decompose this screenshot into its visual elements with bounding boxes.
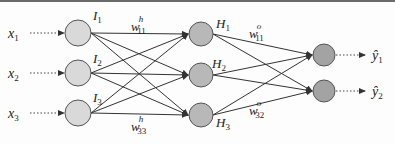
hidden-node-3 [189, 103, 213, 127]
weight-label-wo32: wo32 [249, 98, 264, 120]
weight-label-wh11: wh11 [131, 14, 146, 36]
node-label-i1: I1 [92, 8, 102, 25]
input-label-x2: x2 [7, 66, 19, 83]
node-label-i2: I2 [92, 51, 102, 68]
neural-network-diagram: x1 x2 x3 I1 I2 I3 H1 H2 H3 wh11 wh33 wo1… [0, 0, 395, 144]
diagram-canvas: x1 x2 x3 I1 I2 I3 H1 H2 H3 wh11 wh33 wo1… [0, 0, 395, 144]
output-node-1 [313, 44, 335, 66]
input-node-1 [65, 20, 91, 46]
input-node-2 [65, 60, 91, 86]
node-label-h3: H3 [215, 115, 230, 132]
input-node-3 [65, 100, 91, 126]
input-label-x1: x1 [7, 26, 19, 43]
hidden-node-1 [189, 22, 213, 46]
output-label-y1: ŷ1 [370, 48, 383, 65]
output-arrows [336, 55, 365, 91]
input-label-x3: x3 [7, 106, 19, 123]
node-label-i3: I3 [92, 90, 102, 107]
input-arrows [30, 33, 64, 113]
weight-label-wh33: wh33 [131, 114, 147, 136]
node-label-h2: H2 [211, 56, 226, 73]
weight-label-wo11: wo11 [249, 21, 264, 43]
hidden-node-2 [189, 63, 213, 87]
node-label-h1: H1 [215, 16, 230, 33]
output-label-y2: ŷ2 [370, 84, 383, 101]
hidden-output-edges [213, 34, 312, 115]
input-hidden-edges [91, 33, 188, 115]
output-node-2 [313, 80, 335, 102]
